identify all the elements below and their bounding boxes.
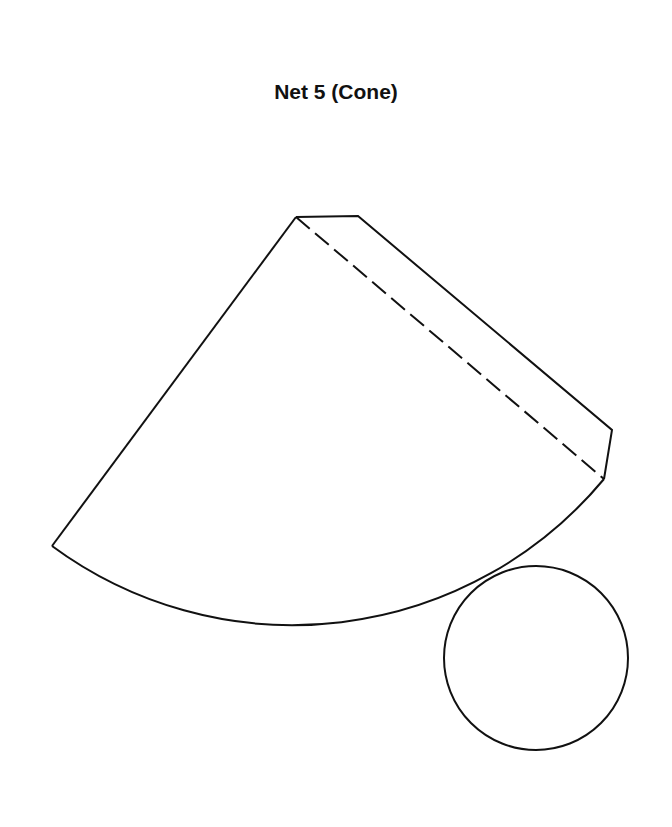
glue-tab	[296, 216, 612, 479]
sector-left-edge	[52, 217, 296, 546]
cone-net-diagram	[0, 0, 672, 827]
fold-line-dashed	[296, 217, 604, 479]
base-circle	[444, 566, 628, 750]
sector-arc	[52, 479, 604, 625]
